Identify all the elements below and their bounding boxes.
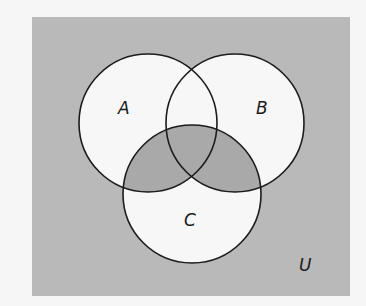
set-a-label: A	[117, 98, 130, 118]
venn-diagram: A B C U	[0, 0, 366, 306]
universe-label: U	[299, 255, 312, 275]
set-b-label: B	[256, 98, 268, 118]
set-c-label: C	[184, 210, 196, 230]
